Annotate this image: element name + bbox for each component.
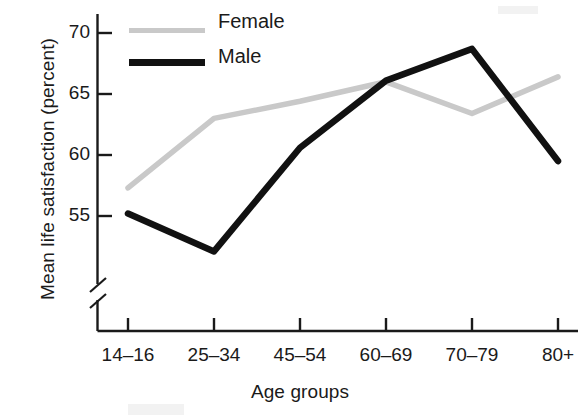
- y-axis-title: Mean life satisfaction (percent): [37, 19, 59, 319]
- x-tick-label-14-16: 14–16: [83, 344, 173, 366]
- line-series-male: [128, 49, 558, 252]
- legend-swatch-male: [129, 59, 205, 66]
- chart-container: 70 65 60 55 14–16 25–34 45–54 60–69 70–7…: [0, 0, 585, 416]
- line-series-female: [128, 77, 558, 188]
- legend-label-female: Female: [218, 10, 285, 33]
- x-tick-label-25-34: 25–34: [169, 344, 259, 366]
- x-axis-title: Age groups: [180, 381, 420, 403]
- x-tick-label-60-69: 60–69: [341, 344, 431, 366]
- x-tick-label-80plus: 80+: [513, 344, 585, 366]
- x-tick-label-45-54: 45–54: [255, 344, 345, 366]
- legend-swatch-female: [129, 28, 205, 33]
- legend-label-male: Male: [218, 45, 261, 68]
- x-tick-label-70-79: 70–79: [427, 344, 517, 366]
